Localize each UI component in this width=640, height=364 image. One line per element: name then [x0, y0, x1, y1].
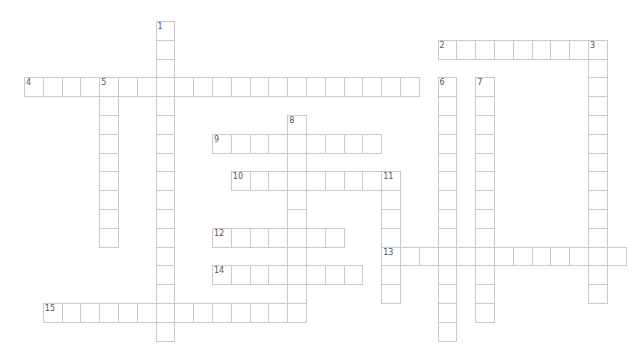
crossword-cell[interactable] [231, 77, 251, 97]
crossword-cell[interactable] [381, 209, 401, 229]
crossword-cell[interactable]: 3 [588, 40, 608, 60]
crossword-cell[interactable] [475, 40, 495, 60]
crossword-cell[interactable]: 2 [438, 40, 458, 60]
crossword-cell[interactable] [156, 284, 176, 304]
crossword-cell[interactable] [137, 303, 157, 323]
crossword-cell[interactable] [156, 153, 176, 173]
crossword-cell[interactable] [250, 228, 270, 248]
crossword-cell[interactable] [99, 171, 119, 191]
crossword-cell[interactable] [438, 247, 458, 267]
crossword-cell[interactable] [456, 247, 476, 267]
crossword-cell[interactable] [588, 265, 608, 285]
crossword-cell[interactable] [438, 303, 458, 323]
crossword-cell[interactable] [438, 228, 458, 248]
crossword-cell[interactable] [287, 228, 307, 248]
crossword-cell[interactable]: 12 [212, 228, 232, 248]
crossword-cell[interactable] [99, 134, 119, 154]
crossword-cell[interactable] [306, 134, 326, 154]
crossword-cell[interactable] [381, 190, 401, 210]
crossword-cell[interactable] [193, 77, 213, 97]
crossword-cell[interactable] [231, 265, 251, 285]
crossword-cell[interactable] [268, 228, 288, 248]
crossword-cell[interactable]: 14 [212, 265, 232, 285]
crossword-cell[interactable] [231, 228, 251, 248]
crossword-cell[interactable] [287, 134, 307, 154]
crossword-cell[interactable] [118, 77, 138, 97]
crossword-cell[interactable] [268, 134, 288, 154]
crossword-cell[interactable] [475, 209, 495, 229]
crossword-cell[interactable] [306, 265, 326, 285]
crossword-cell[interactable] [193, 303, 213, 323]
crossword-cell[interactable] [156, 40, 176, 60]
crossword-cell[interactable]: 1 [156, 21, 176, 41]
crossword-cell[interactable] [438, 322, 458, 342]
crossword-cell[interactable] [174, 77, 194, 97]
crossword-cell[interactable] [156, 96, 176, 116]
crossword-cell[interactable] [231, 134, 251, 154]
crossword-cell[interactable] [362, 134, 382, 154]
crossword-cell[interactable] [99, 190, 119, 210]
crossword-cell[interactable] [362, 77, 382, 97]
crossword-cell[interactable] [588, 284, 608, 304]
crossword-cell[interactable] [513, 247, 533, 267]
crossword-cell[interactable] [325, 228, 345, 248]
crossword-cell[interactable] [344, 134, 364, 154]
crossword-cell[interactable] [569, 247, 589, 267]
crossword-cell[interactable] [588, 153, 608, 173]
crossword-cell[interactable]: 11 [381, 171, 401, 191]
crossword-cell[interactable] [381, 284, 401, 304]
crossword-cell[interactable] [475, 153, 495, 173]
crossword-cell[interactable] [80, 303, 100, 323]
crossword-cell[interactable] [287, 190, 307, 210]
crossword-cell[interactable] [43, 77, 63, 97]
crossword-cell[interactable]: 8 [287, 115, 307, 135]
crossword-cell[interactable] [306, 171, 326, 191]
crossword-cell[interactable] [231, 303, 251, 323]
crossword-cell[interactable] [588, 228, 608, 248]
crossword-cell[interactable]: 10 [231, 171, 251, 191]
crossword-cell[interactable] [156, 171, 176, 191]
crossword-cell[interactable] [287, 77, 307, 97]
crossword-cell[interactable] [588, 115, 608, 135]
crossword-cell[interactable] [62, 77, 82, 97]
crossword-cell[interactable] [287, 153, 307, 173]
crossword-cell[interactable] [419, 247, 439, 267]
crossword-cell[interactable]: 5 [99, 77, 119, 97]
crossword-cell[interactable] [438, 171, 458, 191]
crossword-cell[interactable] [532, 40, 552, 60]
crossword-cell[interactable] [156, 209, 176, 229]
crossword-cell[interactable] [438, 153, 458, 173]
crossword-cell[interactable] [438, 134, 458, 154]
crossword-cell[interactable] [156, 265, 176, 285]
crossword-cell[interactable] [588, 134, 608, 154]
crossword-cell[interactable] [287, 209, 307, 229]
crossword-cell[interactable] [381, 228, 401, 248]
crossword-cell[interactable] [62, 303, 82, 323]
crossword-cell[interactable] [475, 284, 495, 304]
crossword-cell[interactable] [475, 171, 495, 191]
crossword-cell[interactable] [607, 247, 627, 267]
crossword-cell[interactable] [156, 59, 176, 79]
crossword-cell[interactable] [569, 40, 589, 60]
crossword-cell[interactable] [118, 303, 138, 323]
crossword-cell[interactable] [532, 247, 552, 267]
crossword-cell[interactable] [306, 77, 326, 97]
crossword-cell[interactable] [588, 59, 608, 79]
crossword-cell[interactable] [250, 77, 270, 97]
crossword-cell[interactable] [456, 40, 476, 60]
crossword-cell[interactable] [588, 96, 608, 116]
crossword-cell[interactable] [99, 153, 119, 173]
crossword-cell[interactable]: 15 [43, 303, 63, 323]
crossword-cell[interactable] [381, 77, 401, 97]
crossword-cell[interactable] [156, 77, 176, 97]
crossword-cell[interactable] [513, 40, 533, 60]
crossword-cell[interactable] [287, 284, 307, 304]
crossword-cell[interactable] [475, 247, 495, 267]
crossword-cell[interactable] [475, 190, 495, 210]
crossword-cell[interactable] [475, 115, 495, 135]
crossword-cell[interactable] [287, 265, 307, 285]
crossword-cell[interactable] [588, 247, 608, 267]
crossword-cell[interactable] [588, 171, 608, 191]
crossword-cell[interactable] [381, 265, 401, 285]
crossword-cell[interactable] [362, 171, 382, 191]
